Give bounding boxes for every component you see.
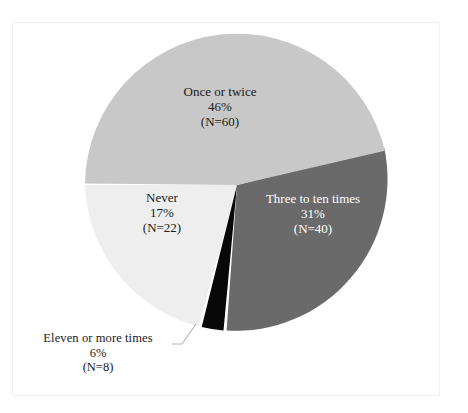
- slice-label-count: (N=8): [8, 360, 188, 375]
- slice-label-once-or-twice: Once or twice 46% (N=60): [150, 84, 290, 129]
- slice-label-percent: 46%: [150, 99, 290, 114]
- slice-label-percent: 17%: [112, 205, 212, 220]
- slice-label-percent: 6%: [8, 346, 188, 361]
- slice-label-count: (N=60): [150, 114, 290, 129]
- slice-label-name: Once or twice: [150, 84, 290, 99]
- slice-label-name: Eleven or more times: [8, 331, 188, 346]
- slice-label-eleven-or-more-times: Eleven or more times 6% (N=8): [8, 331, 188, 375]
- slice-label-count: (N=22): [112, 220, 212, 235]
- slice-label-name: Never: [112, 190, 212, 205]
- slice-label-percent: 31%: [238, 206, 388, 221]
- slice-label-count: (N=40): [238, 221, 388, 236]
- slice-label-three-to-ten-times: Three to ten times 31% (N=40): [238, 191, 388, 236]
- slice-label-never: Never 17% (N=22): [112, 190, 212, 235]
- pie-chart: Once or twice 46% (N=60) Three to ten ti…: [0, 0, 468, 413]
- slice-label-name: Three to ten times: [238, 191, 388, 206]
